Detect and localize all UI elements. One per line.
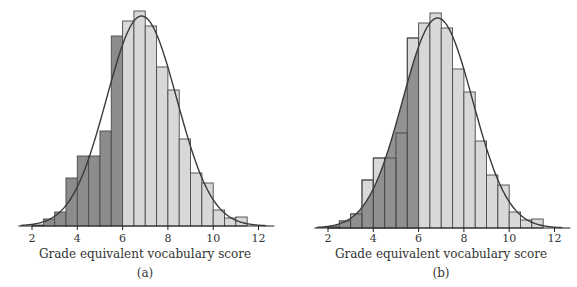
histogram-bar [453, 69, 464, 228]
histogram-bar [145, 26, 156, 226]
panel-a: 24681012 Grade equivalent vocabulary sco… [0, 0, 289, 287]
shaded-area [317, 47, 419, 228]
histogram-b [289, 0, 577, 240]
caption-a: (a) [137, 266, 154, 280]
x-tick-label: 2 [325, 232, 332, 245]
x-tick-label: 10 [206, 232, 220, 245]
histogram-bar [157, 67, 168, 226]
x-tick-label: 6 [415, 232, 422, 245]
histogram-bar [123, 21, 134, 226]
x-axis-label-b: Grade equivalent vocabulary score [335, 247, 547, 261]
x-tick-label: 4 [74, 232, 81, 245]
x-tick-label: 8 [164, 232, 171, 245]
histogram-bar [430, 13, 441, 228]
histogram-a [0, 0, 289, 240]
x-tick-label: 2 [29, 232, 36, 245]
histogram-bar [419, 23, 430, 228]
x-tick-label: 12 [252, 232, 266, 245]
panel-b: 24681012 Grade equivalent vocabulary sco… [289, 0, 577, 287]
x-tick-label: 8 [460, 232, 467, 245]
histogram-bar [487, 175, 498, 228]
histogram-bar [77, 156, 88, 226]
histogram-bar [111, 36, 122, 226]
histogram-bar [441, 28, 452, 228]
x-axis-label-a: Grade equivalent vocabulary score [39, 247, 251, 261]
histogram-bar [134, 11, 145, 226]
histogram-bar [191, 173, 202, 226]
histogram-bar [179, 139, 190, 226]
caption-b: (b) [432, 266, 449, 280]
histogram-bar [464, 92, 475, 228]
x-tick-label: 10 [502, 232, 516, 245]
histogram-bar [475, 141, 486, 228]
histogram-bar [100, 131, 111, 226]
x-tick-label: 4 [370, 232, 377, 245]
x-tick-label: 6 [119, 232, 126, 245]
histogram-bar [168, 90, 179, 226]
histogram-bar [89, 156, 100, 226]
histogram-bar [55, 212, 66, 226]
x-tick-label: 12 [548, 232, 562, 245]
